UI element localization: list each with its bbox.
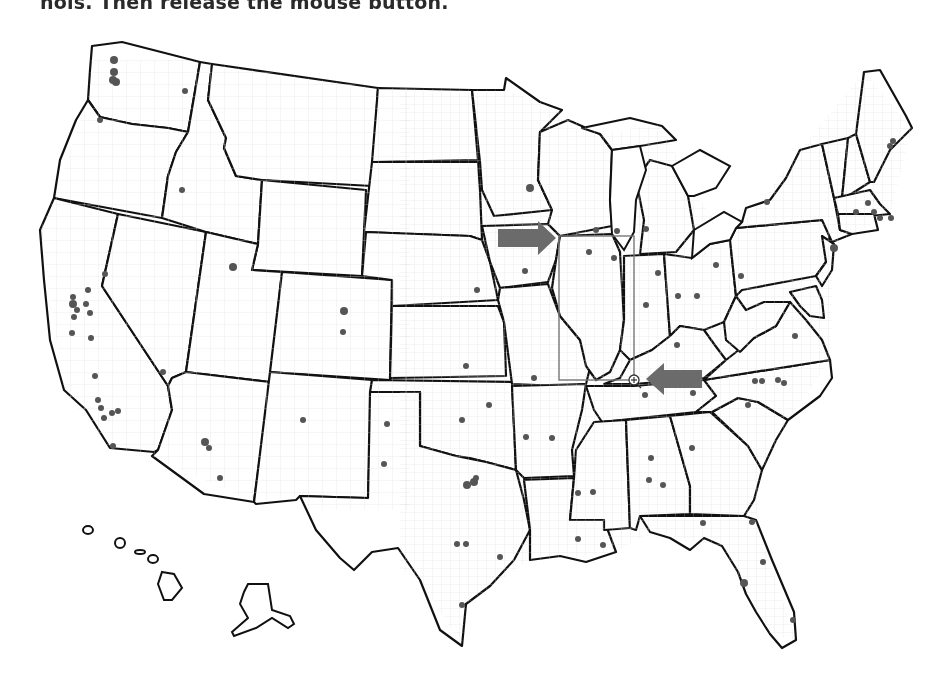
hawaii <box>83 526 182 600</box>
alaska <box>232 584 294 636</box>
us-county-map[interactable] <box>0 0 950 686</box>
county-grid <box>40 60 920 660</box>
